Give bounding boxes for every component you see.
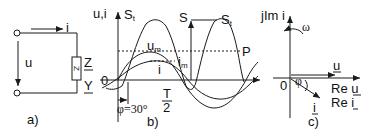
caption-a: a) — [27, 112, 39, 127]
half-period-denominator: 2 — [163, 100, 170, 115]
bottom-terminal — [14, 90, 20, 96]
half-period-numerator: T — [163, 86, 171, 101]
instant-power-label-right: St — [221, 12, 233, 28]
y-axis-label: u,i — [93, 6, 107, 21]
admittance-label: Y — [84, 78, 93, 93]
origin-label-c: 0 — [280, 78, 287, 93]
current-amplitude-label: im — [178, 54, 188, 70]
voltage-phasor-label: u — [333, 58, 340, 73]
caption-c: c) — [308, 114, 319, 129]
current-label-a: i — [66, 20, 69, 35]
ac-circuit-diagram: Z i u Z Y a) u,i St S St P um im i 0 φ=3… — [0, 0, 370, 136]
origin-label-b: 0 — [101, 73, 108, 88]
phi-arc — [305, 80, 307, 91]
instant-power-waveform — [106, 19, 244, 90]
imag-axis-label: jIm i — [260, 8, 285, 23]
active-power-label: P — [242, 44, 251, 59]
apparent-power-label: S — [179, 10, 188, 25]
rotation-arrow-icon — [284, 29, 303, 34]
caption-b: b) — [147, 114, 159, 129]
instant-power-label-left: St — [124, 7, 136, 23]
phase-label: φ=30° — [117, 102, 148, 116]
phi-label: φ — [295, 74, 302, 88]
re-u-label: Re u — [331, 81, 358, 96]
element-symbol: Z — [72, 66, 81, 71]
current-label-b: i — [158, 62, 161, 77]
top-terminal — [14, 30, 20, 36]
omega-label: ω — [302, 20, 310, 34]
voltage-amplitude-label: um — [147, 38, 161, 54]
current-phasor-label: i — [313, 100, 316, 115]
impedance-label: Z — [84, 55, 92, 70]
re-i-label: Re i — [331, 95, 354, 110]
voltage-label-a: u — [25, 55, 32, 70]
